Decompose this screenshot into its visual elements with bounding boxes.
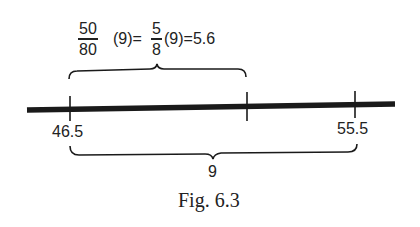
fraction-numerator: 5 (151, 21, 162, 38)
fraction-5-8: 5 8 (151, 21, 162, 58)
equation-part-1: (9)= (113, 31, 142, 47)
top-brace (69, 64, 246, 79)
fraction-50-80: 50 80 (78, 21, 98, 58)
fraction-numerator: 50 (78, 21, 98, 38)
equation-part-2: (9)=5.6 (164, 31, 215, 47)
number-line (27, 104, 395, 110)
bottom-brace-label: 9 (208, 164, 217, 180)
tick-label-left: 46.5 (52, 124, 83, 140)
tick-label-right: 55.5 (337, 121, 368, 137)
fraction-denominator: 8 (152, 40, 161, 58)
fraction-denominator: 80 (79, 40, 97, 58)
bottom-brace (70, 144, 357, 159)
figure-6-3: 50 80 (9)= 5 8 (9)=5.6 46.5 55.5 9 Fig. … (0, 0, 420, 227)
figure-caption: Fig. 6.3 (178, 190, 240, 210)
